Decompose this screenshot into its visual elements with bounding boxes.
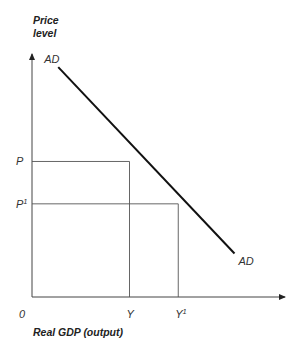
aggregate-demand-chart: Price level Real GDP (output) 0 PYP1Y1 A… <box>0 0 308 351</box>
ad-label-start: AD <box>43 53 59 65</box>
y-tick-label-0: P <box>16 155 24 167</box>
ad-curve <box>58 67 234 253</box>
y-axis-title-line1: Price <box>33 14 59 26</box>
y-axis-title-line2: level <box>33 27 57 39</box>
x-tick-label-0: Y <box>127 308 135 320</box>
ad-label-end: AD <box>238 255 254 267</box>
x-tick-label-1: Y1 <box>175 307 187 320</box>
x-axis-title: Real GDP (output) <box>33 326 124 338</box>
y-tick-label-1: P1 <box>16 197 28 210</box>
origin-label: 0 <box>19 308 26 320</box>
